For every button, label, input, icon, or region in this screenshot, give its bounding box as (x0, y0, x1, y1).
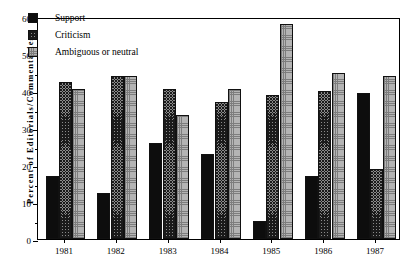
legend-label: Support (55, 13, 85, 23)
bar-chart-figure: Percent of Editorials/Commentaries 01020… (0, 0, 416, 278)
support-bar (305, 176, 318, 239)
support-bar (253, 221, 266, 240)
x-tick (64, 239, 65, 243)
legend-item: Criticism (28, 26, 138, 43)
y-tick-label: 10 (22, 199, 31, 209)
criticism-bar (318, 91, 331, 239)
y-tick-major (33, 130, 38, 131)
ambiguous-bar (228, 89, 241, 239)
ambiguous-bar (332, 73, 345, 240)
x-tick-label: 1982 (107, 246, 125, 256)
ambiguous-bar (72, 89, 85, 239)
ambiguous-bar (124, 76, 137, 239)
y-tick-minor (35, 186, 38, 187)
x-tick (323, 239, 324, 243)
y-tick-minor (35, 75, 38, 76)
x-tick (116, 239, 117, 243)
y-tick-label: 30 (22, 125, 31, 135)
x-tick (375, 239, 376, 243)
support-swatch (28, 13, 38, 23)
x-tick (168, 239, 169, 243)
y-tick-major (33, 167, 38, 168)
y-tick-minor (35, 223, 38, 224)
x-tick-label: 1985 (262, 246, 280, 256)
ambiguous-swatch (28, 47, 38, 57)
criticism-bar (215, 102, 228, 239)
criticism-bar (266, 95, 279, 239)
x-tick (271, 239, 272, 243)
y-tick-minor (35, 149, 38, 150)
support-bar (149, 143, 162, 239)
support-bar (357, 93, 370, 239)
y-tick-major (33, 204, 38, 205)
criticism-bar (163, 89, 176, 239)
support-bar (97, 193, 110, 239)
y-tick-minor (35, 112, 38, 113)
x-tick-label: 1983 (159, 246, 177, 256)
support-bar (201, 154, 214, 239)
y-tick-label: 20 (22, 162, 31, 172)
legend-label: Ambiguous or neutral (55, 47, 138, 57)
y-tick-label: 40 (22, 88, 31, 98)
x-tick-label: 1984 (211, 246, 229, 256)
legend-label: Criticism (55, 30, 90, 40)
support-bar (46, 176, 59, 239)
x-tick-label: 1987 (366, 246, 384, 256)
y-tick-major (33, 93, 38, 94)
criticism-bar (370, 169, 383, 239)
ambiguous-bar (176, 115, 189, 239)
chart-legend: SupportCriticismAmbiguous or neutral (28, 9, 138, 60)
x-tick (220, 239, 221, 243)
criticism-bar (59, 82, 72, 239)
y-tick-label: 0 (27, 236, 32, 246)
x-tick-label: 1981 (55, 246, 73, 256)
legend-item: Ambiguous or neutral (28, 43, 138, 60)
y-tick-major (33, 241, 38, 242)
x-tick-label: 1986 (314, 246, 332, 256)
legend-item: Support (28, 9, 138, 26)
criticism-bar (111, 76, 124, 239)
criticism-swatch (28, 30, 38, 40)
ambiguous-bar (383, 76, 396, 239)
ambiguous-bar (280, 24, 293, 239)
